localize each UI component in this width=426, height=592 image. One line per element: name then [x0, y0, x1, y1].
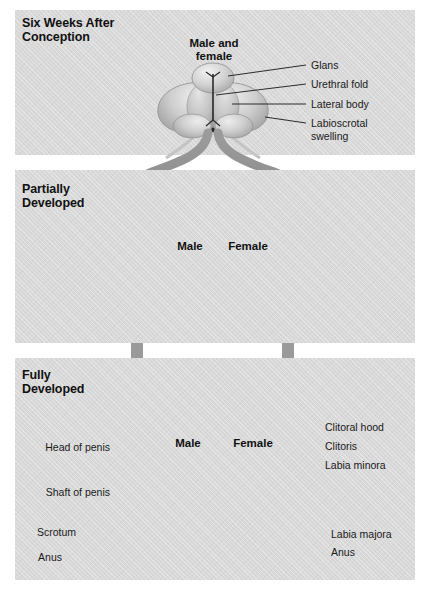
label-anus-male: Anus — [20, 551, 62, 564]
label-clitoral-hood: Clitoral hood — [325, 421, 384, 434]
figure-caption-partial-female: Female — [218, 240, 278, 253]
label-scrotum: Scrotum — [20, 526, 76, 539]
stage-title-partially-developed: Partially Developed — [22, 183, 172, 210]
label-labia-minora: Labia minora — [325, 459, 386, 472]
figure-caption-adult-male: Male — [160, 437, 216, 450]
indifferent-genital-tubercle — [158, 63, 268, 158]
label-glans: Glans — [311, 59, 338, 72]
figure-caption-partial-male: Male — [160, 240, 220, 253]
label-clitoris: Clitoris — [325, 440, 357, 453]
label-lateral-body: Lateral body — [311, 98, 369, 111]
label-labioscrotal-swelling: Labioscrotal swelling — [311, 117, 407, 142]
label-urethral-fold: Urethral fold — [311, 78, 368, 91]
label-shaft-of-penis: Shaft of penis — [20, 486, 110, 499]
label-labia-majora: Labia majora — [331, 528, 392, 541]
diagram-canvas: Six Weeks After Conception Male and fema… — [0, 0, 426, 592]
figure-caption-adult-female: Female — [222, 437, 284, 450]
stage-title-fully-developed: Fully Developed — [22, 369, 172, 396]
label-head-of-penis: Head of penis — [20, 441, 110, 454]
label-anus-female: Anus — [331, 546, 355, 559]
